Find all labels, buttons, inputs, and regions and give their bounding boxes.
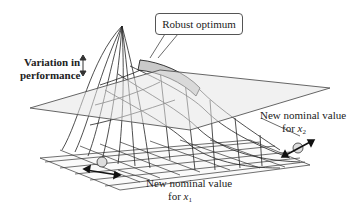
x2-prefix: for	[282, 122, 298, 134]
x2-sub: 2	[302, 128, 306, 136]
x1-prefix: for	[168, 190, 184, 202]
x2-range-arrow	[282, 140, 314, 157]
x2-label-line1: New nominal value	[260, 109, 346, 121]
x1-label-line1: New nominal value	[146, 177, 232, 189]
variation-label: Variation in	[24, 56, 80, 68]
x1-sub: 1	[188, 196, 192, 204]
x1-label-line2: for x1	[168, 190, 192, 205]
performance-label: performance	[20, 69, 80, 81]
variation-arrow	[80, 55, 86, 76]
robust-optimum-callout: Robust optimum	[155, 13, 243, 35]
x2-label-line2: for x2	[282, 122, 306, 138]
x1-nominal-marker	[97, 157, 107, 167]
